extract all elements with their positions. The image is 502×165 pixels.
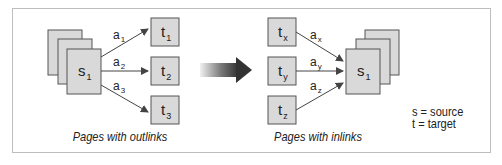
transition-arrow-icon bbox=[200, 57, 252, 83]
outlink-label-3: a3 bbox=[113, 80, 125, 95]
right-target-label-z: tz bbox=[278, 102, 288, 121]
inlink-label-x: ax bbox=[310, 29, 322, 44]
left-target-label-3: t3 bbox=[161, 102, 171, 121]
right-source-label: s1 bbox=[357, 63, 371, 82]
outlink-label-1: a1 bbox=[113, 29, 125, 44]
inlink-label-z: az bbox=[310, 80, 322, 95]
right-source-page-stack bbox=[346, 30, 399, 94]
right-panel-caption: Pages with inlinks bbox=[274, 129, 362, 144]
right-target-label-y: ty bbox=[278, 63, 288, 82]
legend: s = source t = target bbox=[412, 106, 463, 130]
left-source-page-stack bbox=[48, 30, 101, 94]
right-target-label-x: tx bbox=[278, 24, 288, 43]
left-target-label-2: t2 bbox=[161, 63, 171, 82]
left-panel-caption: Pages with outlinks bbox=[73, 129, 168, 144]
inlink-label-y: ay bbox=[310, 56, 322, 71]
left-source-label: s1 bbox=[78, 63, 92, 82]
left-target-label-1: t1 bbox=[161, 24, 171, 43]
outlink-label-2: a2 bbox=[113, 56, 125, 71]
legend-target: t = target bbox=[412, 118, 463, 130]
